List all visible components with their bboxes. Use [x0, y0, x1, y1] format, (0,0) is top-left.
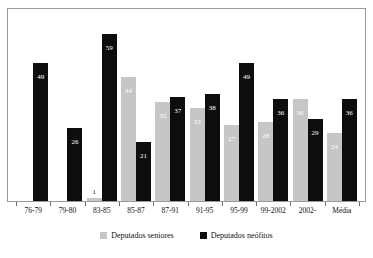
bar-senior[interactable]: 35: [155, 102, 170, 201]
category-label: 2002-: [290, 206, 324, 216]
legend-swatch-neofitos: [200, 232, 207, 239]
bar-senior[interactable]: 44: [121, 77, 136, 201]
bar-group: 3629: [290, 9, 324, 201]
bar-value-label: 21: [136, 152, 151, 160]
bar-neofito[interactable]: 37: [170, 97, 185, 201]
bar-value-label: 37: [170, 107, 185, 115]
chart-legend: Deputados senioresDeputados neófitos: [0, 231, 373, 240]
bar-value-label: 28: [258, 132, 273, 140]
bar-value-label: 27: [224, 135, 239, 143]
category-label: 91-95: [187, 206, 221, 216]
bar-value-label: 36: [293, 109, 308, 117]
bar-value-label: 29: [308, 129, 323, 137]
bar-value-label: 1: [87, 188, 102, 196]
category-label: 83-85: [85, 206, 119, 216]
bar-value-label: 44: [121, 87, 136, 95]
legend-item[interactable]: Deputados seniores: [100, 231, 173, 240]
bar-value-label: 36: [273, 109, 288, 117]
legend-label: Deputados neófitos: [211, 231, 273, 240]
category-label: 76-79: [16, 206, 50, 216]
plot-area: 49261594421353733382749283636292436: [8, 9, 365, 201]
bar-neofito[interactable]: 36: [273, 99, 288, 201]
bar-group: 2749: [222, 9, 256, 201]
bar-neofito[interactable]: 59: [102, 34, 117, 201]
bar-value-label: 35: [155, 112, 170, 120]
bar-neofito[interactable]: 26: [67, 128, 82, 201]
bar-senior[interactable]: 27: [224, 125, 239, 201]
bar-value-label: 36: [342, 109, 357, 117]
bar-group: 2436: [325, 9, 359, 201]
bar-senior[interactable]: 28: [258, 122, 273, 201]
bar-neofito[interactable]: 36: [342, 99, 357, 201]
category-axis-labels: 76-7979-8083-8585-8787-9191-9595-9999-20…: [8, 206, 365, 216]
bar-senior[interactable]: 24: [327, 133, 342, 201]
bar-senior[interactable]: 33: [190, 108, 205, 201]
bar-value-label: 59: [102, 44, 117, 52]
bar-group: 2836: [256, 9, 290, 201]
bars-layer: 49261594421353733382749283636292436: [8, 9, 365, 201]
bar-neofito[interactable]: 29: [308, 119, 323, 201]
bar-senior[interactable]: 36: [293, 99, 308, 201]
bar-value-label: 49: [239, 73, 254, 81]
category-label: Média: [325, 206, 359, 216]
bar-neofito[interactable]: 49: [239, 63, 254, 201]
legend-label: Deputados seniores: [111, 231, 173, 240]
bar-senior[interactable]: 1: [87, 198, 102, 201]
category-label: 85-87: [119, 206, 153, 216]
bar-group: 49: [16, 9, 50, 201]
category-label: 79-80: [50, 206, 84, 216]
bar-value-label: 24: [327, 143, 342, 151]
legend-item[interactable]: Deputados neófitos: [200, 231, 273, 240]
bar-chart: 49261594421353733382749283636292436 76-7…: [0, 0, 373, 258]
category-label: 99-2002: [256, 206, 290, 216]
bar-group: 3338: [187, 9, 221, 201]
bar-group: 3537: [153, 9, 187, 201]
legend-swatch-seniores: [100, 232, 107, 239]
bar-group: 159: [85, 9, 119, 201]
bar-value-label: 49: [33, 73, 48, 81]
bar-neofito[interactable]: 38: [205, 94, 220, 201]
bar-neofito[interactable]: 21: [136, 142, 151, 201]
bar-group: 4421: [119, 9, 153, 201]
bar-value-label: 33: [190, 118, 205, 126]
bar-neofito[interactable]: 49: [33, 63, 48, 201]
bar-value-label: 38: [205, 104, 220, 112]
category-label: 87-91: [153, 206, 187, 216]
category-label: 95-99: [222, 206, 256, 216]
bar-value-label: 26: [67, 138, 82, 146]
bar-group: 26: [50, 9, 84, 201]
